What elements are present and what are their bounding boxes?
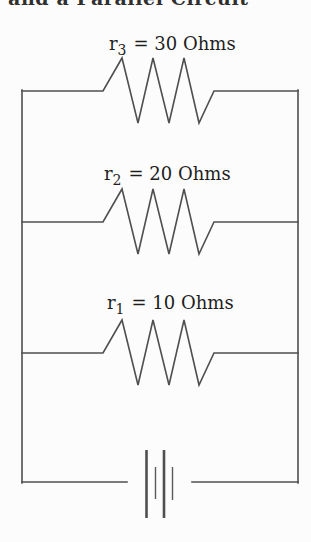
resistor-r1-zigzag: [22, 320, 298, 385]
r2-value: = 20 Ohms: [129, 163, 231, 184]
r2-subscript: 2: [113, 172, 122, 188]
r1-symbol: r: [107, 292, 116, 313]
r3-subscript: 3: [118, 42, 127, 58]
resistor-r3-label: r3= 30 Ohms: [109, 33, 236, 54]
resistor-r3-zigzag: [22, 58, 298, 123]
r3-symbol: r: [109, 33, 118, 54]
resistor-r2-zigzag: [22, 189, 298, 254]
r2-symbol: r: [104, 163, 113, 184]
parallel-circuit-diagram: and a Parallel Circuit r3= 30 Ohms: [0, 0, 311, 542]
r1-subscript: 1: [116, 301, 125, 317]
r3-value: = 30 Ohms: [134, 33, 236, 54]
resistor-r2-label: r2= 20 Ohms: [104, 163, 231, 184]
circuit-svg: [0, 0, 311, 542]
r1-value: = 10 Ohms: [132, 292, 234, 313]
resistor-r1-label: r1= 10 Ohms: [107, 292, 234, 313]
battery-symbol: [147, 450, 173, 518]
